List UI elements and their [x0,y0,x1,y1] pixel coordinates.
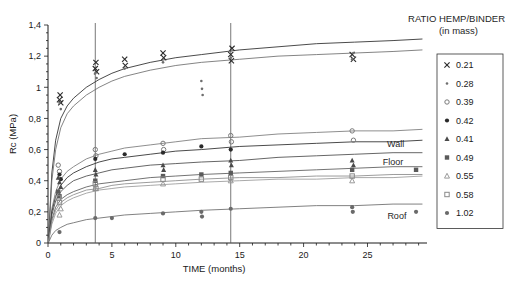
series-points-1.02 [57,205,418,234]
legend-label: 0.28 [456,79,474,89]
y-tick-label: 0,8 [28,114,41,124]
series-points-0.28 [58,52,355,111]
legend-label: 0.55 [456,171,474,181]
series-points-0.41 [56,158,356,189]
compressive-strength-chart: 00,20,40,60,811,21,40510152025TIME (mont… [0,0,510,289]
series-points-0.58 [56,174,354,205]
legend-label: 0.42 [456,116,474,126]
series-points-0.42 [57,144,232,181]
legend-label: 0.39 [456,97,474,107]
series-points-0.39 [56,129,356,174]
y-tick-label: 0,4 [28,176,41,186]
y-tick-label: 1 [36,83,41,93]
annotation-floor: Floor [383,157,404,167]
legend-label: 0.21 [456,60,474,70]
x-tick-label: 20 [299,250,309,260]
y-tick-label: 0 [36,238,41,248]
series-curve-1.02 [49,204,423,242]
series-points-0.49 [56,168,418,199]
chart-subtitle: (in mass) [439,25,478,36]
annotations: WallFloorRoof [383,139,407,221]
x-tick-label: 10 [171,250,181,260]
x-tick-label: 5 [109,250,114,260]
chart-title: RATIO HEMP/BINDER [408,13,505,24]
y-tick-label: 1,2 [28,51,41,61]
series-curve-0.28 [49,50,423,238]
annotation-wall: Wall [387,139,404,149]
x-tick-label: 15 [235,250,245,260]
x-tick-label: 0 [45,250,50,260]
legend-label: 0.58 [456,190,474,200]
series-curve-0.41 [49,153,423,240]
series-curves [49,39,423,242]
axes: 00,20,40,60,811,21,40510152025 [28,20,427,260]
y-tick-label: 1,4 [28,20,41,30]
annotation-roof: Roof [387,211,407,221]
y-tick-label: 0,2 [28,207,41,217]
x-axis-title: TIME (months) [183,263,246,274]
series-curve-0.21 [49,39,423,237]
legend: 0.210.280.390.420.410.490.550.581.02 [437,54,503,229]
series-curve-0.42 [49,140,423,240]
legend-label: 1.02 [456,208,474,218]
legend-label: 0.41 [456,134,474,144]
series-curve-0.39 [49,129,423,240]
y-tick-label: 0,6 [28,145,41,155]
legend-label: 0.49 [456,153,474,163]
chart-container: 00,20,40,60,811,21,40510152025TIME (mont… [0,0,510,289]
y-axis-title: Rc (MPa) [7,114,18,154]
series-curve-0.58 [49,174,423,241]
x-tick-label: 25 [362,250,372,260]
